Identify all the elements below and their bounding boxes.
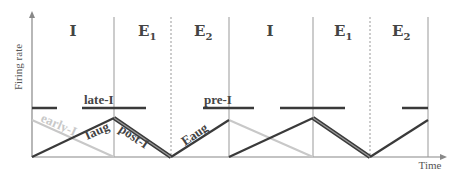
late-i-label: late-I xyxy=(84,92,114,107)
pre-i-label: pre-I xyxy=(204,92,232,107)
phase-label-e2: E2 xyxy=(194,22,212,42)
y-axis-arrow-icon xyxy=(29,11,35,18)
eaug-label: Eaug xyxy=(178,120,211,149)
eaug-line xyxy=(370,120,428,157)
phase-label-e1: E1 xyxy=(334,22,352,42)
x-axis-label: Time xyxy=(419,159,442,171)
phase-label-e2: E2 xyxy=(392,22,410,42)
post-i-label: post-I xyxy=(116,121,151,152)
early-i-label: early-I xyxy=(39,110,79,139)
phase-labels: I E1 E2 I E1 E2 xyxy=(69,22,410,42)
respiratory-phase-diagram: Firing rate Time I E1 E2 I E1 E2 xyxy=(0,0,460,175)
phase-label-e1: E1 xyxy=(138,22,156,42)
curve-labels: late-I pre-I early-I Iaug post-I Eaug xyxy=(39,92,232,152)
phase-label-i: I xyxy=(266,22,273,40)
phase-label-i: I xyxy=(69,22,76,40)
post-i-line-inner xyxy=(313,118,370,157)
y-axis-label: Firing rate xyxy=(12,44,24,90)
